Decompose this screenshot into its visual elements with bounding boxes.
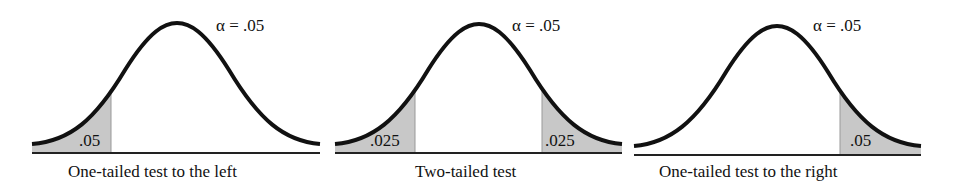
alpha-label: α = .05	[216, 16, 264, 36]
alpha-label: α = .05	[813, 16, 861, 36]
tail-label-left: .05	[79, 131, 100, 151]
tail-label-right: .025	[545, 131, 575, 151]
bell-curve	[634, 26, 921, 146]
alpha-label: α = .05	[512, 16, 560, 36]
bell-curve	[32, 23, 320, 144]
caption-left: One-tailed test to the left	[68, 162, 237, 182]
caption-right: One-tailed test to the right	[659, 162, 837, 182]
bell-curve	[335, 24, 622, 144]
panel-two-tailed: α = .05 .025 .025 Two-tailed test	[320, 0, 630, 196]
panel-one-tailed-right: α = .05 .05 One-tailed test to the right	[630, 0, 953, 196]
tail-label-left: .025	[370, 131, 400, 151]
caption-two: Two-tailed test	[415, 162, 516, 182]
tail-label-right: .05	[850, 131, 871, 151]
panel-one-tailed-left: α = .05 .05 One-tailed test to the left	[0, 0, 320, 196]
